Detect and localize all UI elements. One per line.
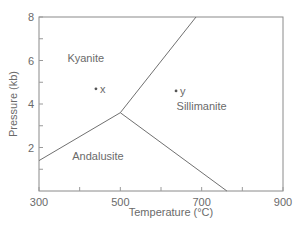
phase-boundary-line — [120, 17, 196, 113]
point-label-y: y — [180, 85, 186, 97]
phase-diagram-chart: 3005007009002468 Temperature (°C)Pressur… — [0, 0, 302, 229]
region-label-andalusite: Andalusite — [72, 150, 123, 162]
phase-boundary-line — [120, 113, 227, 191]
point-label-x: x — [100, 83, 106, 95]
y-tick-label: 8 — [28, 11, 34, 23]
y-tick-label: 4 — [28, 98, 34, 110]
point-marker-y — [175, 90, 178, 93]
x-tick-label: 500 — [111, 196, 129, 208]
x-axis-title: Temperature (°C) — [129, 206, 213, 218]
region-label-kyanite: Kyanite — [67, 52, 104, 64]
x-tick-label: 900 — [274, 196, 292, 208]
x-tick-label: 300 — [30, 196, 48, 208]
region-label-sillimanite: Sillimanite — [177, 100, 227, 112]
plot-frame — [39, 17, 283, 191]
y-axis-title: Pressure (kb) — [7, 71, 19, 137]
y-tick-label: 6 — [28, 55, 34, 67]
point-marker-x — [95, 87, 98, 90]
y-tick-label: 2 — [28, 142, 34, 154]
